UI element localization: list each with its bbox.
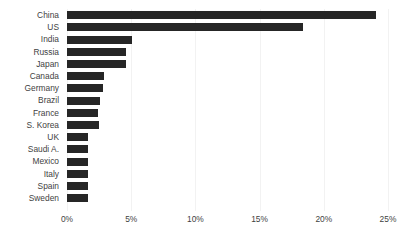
bar	[67, 97, 100, 105]
gridline	[324, 9, 325, 211]
category-label: Canada	[30, 70, 59, 82]
category-label: China	[37, 9, 59, 21]
category-label: France	[33, 107, 59, 119]
bar	[67, 194, 88, 202]
bar	[67, 121, 99, 129]
value-tick-label: 0%	[61, 214, 73, 224]
bar	[67, 133, 88, 141]
category-label: Germany	[25, 82, 59, 94]
gridline	[260, 9, 261, 211]
gridline	[388, 9, 389, 211]
bar	[67, 48, 126, 56]
bar	[67, 11, 376, 19]
category-axis-labels: ChinaUSIndiaRussiaJapanCanadaGermanyBraz…	[0, 9, 63, 211]
bar	[67, 84, 103, 92]
category-label: Mexico	[32, 155, 59, 167]
bar	[67, 36, 132, 44]
value-tick-label: 15%	[251, 214, 268, 224]
category-label: S. Korea	[26, 119, 59, 131]
gridline	[195, 9, 196, 211]
bar	[67, 158, 88, 166]
category-label: Italy	[44, 168, 59, 180]
category-label: Russia	[33, 46, 59, 58]
value-tick-label: 5%	[125, 214, 137, 224]
category-label: Sweden	[29, 192, 59, 204]
value-tick-label: 10%	[187, 214, 204, 224]
bar	[67, 109, 98, 117]
category-label: Saudi A.	[28, 143, 59, 155]
bar	[67, 182, 88, 190]
category-label: US	[47, 21, 59, 33]
category-label: Brazil	[38, 94, 59, 106]
bar-chart: ChinaUSIndiaRussiaJapanCanadaGermanyBraz…	[0, 0, 419, 252]
bar	[67, 170, 88, 178]
bar	[67, 145, 88, 153]
bar	[67, 23, 303, 31]
category-label: Japan	[36, 58, 59, 70]
value-tick-label: 20%	[315, 214, 332, 224]
category-label: UK	[47, 131, 59, 143]
value-axis-labels: 0%5%10%15%20%25%	[0, 214, 419, 234]
bar	[67, 72, 104, 80]
category-label: Spain	[38, 180, 59, 192]
plot-area	[67, 9, 388, 211]
category-label: India	[41, 33, 59, 45]
value-tick-label: 25%	[380, 214, 397, 224]
bar	[67, 60, 126, 68]
